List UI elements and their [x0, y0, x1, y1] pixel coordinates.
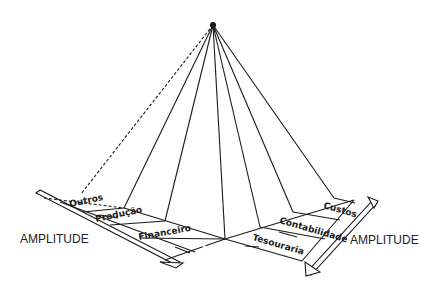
ray-2 [165, 25, 213, 221]
left-row-4 [165, 239, 225, 260]
ray-5 [213, 25, 293, 212]
label-financeiro: Financeiro [138, 223, 192, 242]
label-outros: Outros [68, 192, 104, 209]
ray-3 [213, 25, 225, 239]
ray-6 [213, 25, 334, 198]
pyramid-diagram: Outros Produção Financeiro Custos Contab… [0, 0, 439, 287]
right-amplitude-label: AMPLITUDE [350, 233, 419, 247]
ray-dashed [81, 25, 213, 194]
ray-1 [124, 25, 213, 208]
ray-4 [213, 25, 260, 227]
label-tesouraria: Tesouraria [251, 232, 305, 256]
left-amplitude-label: AMPLITUDE [20, 232, 89, 246]
